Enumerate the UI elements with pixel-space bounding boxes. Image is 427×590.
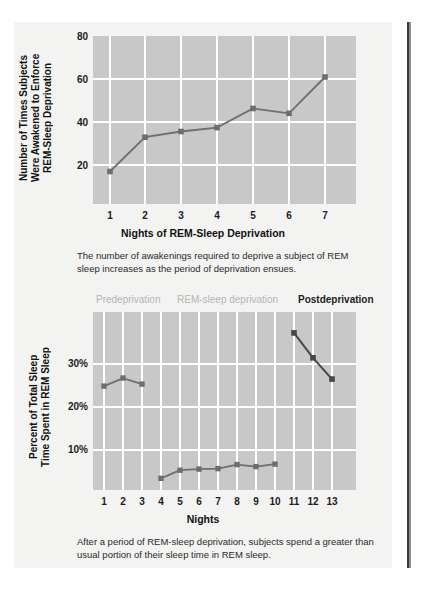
top-chart-xtick-7: 7: [322, 210, 328, 221]
top-chart-ytick-80: 80: [64, 31, 88, 42]
bottom-chart-xtick-1: 1: [101, 496, 107, 507]
bottom-chart-series-lines: [93, 312, 356, 490]
page-root: Number of Times Subjects Were Awakened t…: [0, 0, 427, 590]
phase-label-postdeprivation: Postdeprivation: [298, 294, 374, 305]
bottom-chart-xtick-11: 11: [289, 496, 300, 507]
top-chart-series-line: [93, 36, 356, 204]
top-chart-ytick-60: 60: [64, 74, 88, 85]
bottom-chart-xtick-4: 4: [158, 496, 164, 507]
phase-label-predeprivation: Predeprivation: [96, 294, 160, 305]
top-chart-y-axis-title: Number of Times Subjects Were Awakened t…: [18, 28, 62, 208]
bottom-chart-xtick-13: 13: [326, 496, 337, 507]
phase-label-rem-sleep-deprivation: REM-sleep deprivation: [177, 294, 278, 305]
top-chart-xtick-5: 5: [250, 210, 256, 221]
figure-panel: Number of Times Subjects Were Awakened t…: [14, 22, 392, 568]
top-chart-xtick-3: 3: [178, 210, 184, 221]
bottom-chart-ytick-20: 20%: [58, 401, 88, 412]
top-chart-x-axis-title: Nights of REM-Sleep Deprivation: [14, 227, 392, 239]
top-chart-xtick-2: 2: [142, 210, 148, 221]
top-chart-ytick-40: 40: [64, 117, 88, 128]
bottom-chart-xtick-3: 3: [139, 496, 145, 507]
top-chart-caption: The number of awakenings required to dep…: [77, 250, 367, 275]
bottom-chart-xtick-10: 10: [269, 496, 280, 507]
bottom-chart-caption: After a period of REM-sleep deprivation,…: [77, 536, 377, 561]
bottom-chart-ytick-30: 30%: [58, 358, 88, 369]
bottom-chart-y-axis-title: Percent of Total Sleep Time Spent in REM…: [28, 322, 62, 492]
bottom-chart-plot-area: [93, 312, 356, 490]
bottom-chart-ytick-10: 10%: [58, 444, 88, 455]
top-chart-xtick-6: 6: [286, 210, 292, 221]
bottom-chart-xtick-7: 7: [215, 496, 221, 507]
bottom-chart-xtick-5: 5: [177, 496, 183, 507]
bottom-chart-x-axis-title: Nights: [14, 513, 392, 525]
top-chart-plot-area: [93, 36, 356, 204]
bottom-chart-xtick-9: 9: [253, 496, 259, 507]
bottom-chart-xtick-8: 8: [234, 496, 240, 507]
bottom-chart-xtick-2: 2: [120, 496, 126, 507]
bottom-chart-xtick-12: 12: [307, 496, 318, 507]
top-chart-ytick-20: 20: [64, 160, 88, 171]
page-gutter-line-shadow: [409, 22, 411, 568]
top-chart-xtick-1: 1: [107, 210, 113, 221]
top-chart-xtick-4: 4: [214, 210, 220, 221]
bottom-chart-xtick-6: 6: [196, 496, 202, 507]
